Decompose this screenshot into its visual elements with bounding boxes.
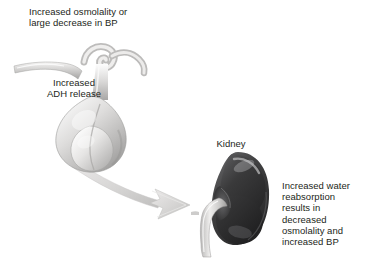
label-kidney: Kidney xyxy=(206,138,256,149)
label-stimulus: Increased osmolality or large decrease i… xyxy=(29,6,127,28)
pituitary-gland xyxy=(14,47,144,173)
label-adh-release: Increased ADH release xyxy=(47,77,101,99)
figure-canvas: Increased osmolality or large decrease i… xyxy=(0,0,375,263)
label-effect: Increased water reabsorption results in … xyxy=(282,180,350,247)
